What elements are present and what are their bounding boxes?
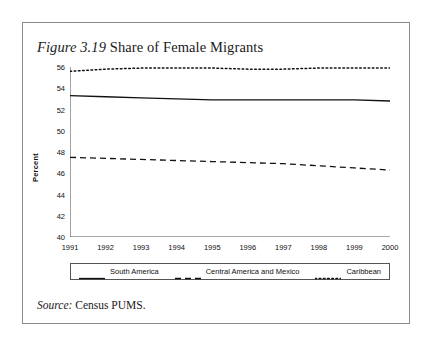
y-tick-label: 42 <box>57 211 65 220</box>
x-tick-label: 1994 <box>168 243 185 252</box>
plot-area: 404244464850525456 199119921993199419951… <box>70 67 390 237</box>
source-label: Source: <box>37 299 72 311</box>
legend-entry: Caribbean <box>315 267 381 276</box>
chart-canvas <box>70 67 390 237</box>
y-axis-title: Percent <box>31 138 40 198</box>
x-tick-label: 1993 <box>133 243 150 252</box>
legend-swatch-solid-icon <box>79 268 105 275</box>
legend-entry: South America <box>79 267 159 276</box>
figure-title: Figure 3.19 Share of Female Migrants <box>37 39 263 56</box>
x-tick-label: 1995 <box>204 243 221 252</box>
series-line <box>70 157 390 170</box>
chart-legend: South AmericaCentral America and MexicoC… <box>70 263 390 280</box>
x-tick-label: 1996 <box>239 243 256 252</box>
x-tick-label: 1991 <box>62 243 79 252</box>
legend-label: South America <box>110 267 159 276</box>
legend-swatch-dotted-icon <box>315 268 341 275</box>
y-tick-label: 40 <box>57 233 65 242</box>
x-tick-label: 2000 <box>382 243 399 252</box>
y-tick-label: 54 <box>57 84 65 93</box>
series-line <box>70 96 390 101</box>
legend-entry: Central America and Mexico <box>175 267 300 276</box>
y-tick-label: 48 <box>57 148 65 157</box>
source-value: Census PUMS. <box>72 299 145 311</box>
y-tick-label: 52 <box>57 105 65 114</box>
y-tick-label: 46 <box>57 169 65 178</box>
figure-card: Figure 3.19 Share of Female Migrants Per… <box>22 22 410 324</box>
x-tick-label: 1998 <box>311 243 328 252</box>
source-note: Source: Census PUMS. <box>37 299 146 311</box>
legend-label: Central America and Mexico <box>206 267 300 276</box>
plot-block: Percent 404244464850525456 1991199219931… <box>23 67 411 282</box>
x-tick-label: 1997 <box>275 243 292 252</box>
x-tick-label: 1999 <box>346 243 363 252</box>
y-tick-label: 44 <box>57 190 65 199</box>
legend-label: Caribbean <box>346 267 381 276</box>
y-tick-label: 56 <box>57 63 65 72</box>
x-tick-label: 1992 <box>97 243 114 252</box>
series-line <box>70 68 390 71</box>
legend-swatch-dashed-icon <box>175 268 201 275</box>
figure-title-text: Share of Female Migrants <box>106 39 263 55</box>
figure-number: Figure 3.19 <box>37 39 106 55</box>
y-tick-label: 50 <box>57 126 65 135</box>
